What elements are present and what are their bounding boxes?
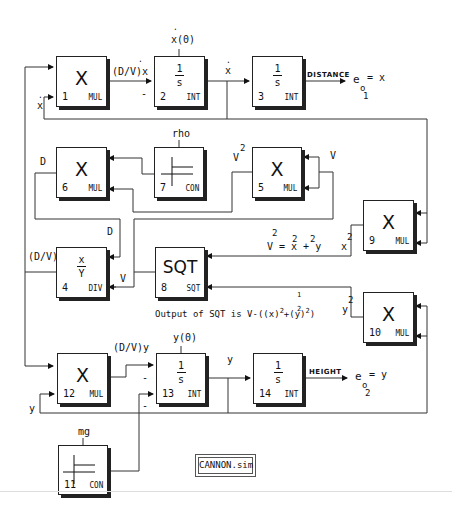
label-mg: mg: [78, 426, 90, 437]
block-type: MUL: [395, 236, 409, 246]
block-14-int[interactable]: 1s 14 INT: [253, 353, 303, 404]
label-v2: V: [233, 152, 239, 163]
block-number: 13: [162, 388, 174, 399]
wire-ydot-10a: [416, 306, 427, 413]
model-title: CANNON.sim: [198, 457, 253, 474]
label-sqt-output: Output of SQT is V-((x)2+(y)2): [155, 307, 315, 319]
label-height: HEIGHT: [309, 368, 342, 376]
label-xdot2-9-sup: 2: [347, 232, 352, 242]
label-xdot-fb: x: [37, 100, 43, 111]
block-number: 4: [62, 282, 68, 293]
label-dv-ydot: (D/V)y: [113, 342, 149, 353]
block-type: SQT: [186, 283, 200, 293]
label-dv-xdot: (D/V)x: [112, 66, 148, 77]
block-type: INT: [186, 92, 200, 102]
label-minus-13b: -: [142, 400, 148, 411]
block-2-int[interactable]: 1s 2 INT: [154, 56, 205, 107]
block-type: INT: [284, 92, 298, 102]
model-title-box: CANNON.sim: [195, 454, 256, 477]
wire-xdot-9b: [416, 213, 427, 243]
label-eo2: e: [355, 370, 362, 383]
wire-dv-bus: [25, 67, 53, 366]
block-5-mul[interactable]: X 5 MUL: [252, 147, 302, 198]
block-8-sqt[interactable]: SQT 8 SQT: [155, 247, 205, 298]
integrator-transfer-function: 1s: [157, 360, 205, 385]
label-ydot-13out: y: [227, 354, 233, 365]
label-d-6: D: [40, 156, 46, 167]
block-number: 7: [160, 182, 166, 193]
label-eo2-rhs: = y: [369, 369, 387, 380]
label-v-5: V: [330, 150, 336, 161]
block-type: CON: [89, 480, 103, 490]
block-type: MUL: [89, 389, 103, 399]
label-ydot-fb: y: [29, 403, 35, 414]
block-type: INT: [284, 389, 298, 399]
label-sqt-half-den: 2: [297, 305, 301, 313]
block-9-mul[interactable]: X 9 MUL: [363, 200, 414, 251]
label-dot: .: [226, 56, 231, 65]
label-minus-13a: -: [142, 372, 148, 383]
block-number: 2: [160, 91, 166, 102]
label-eo1-rhs: = x: [367, 72, 385, 83]
label-v-8: V: [120, 273, 126, 284]
block-3-int[interactable]: 1s 3 INT: [252, 56, 303, 107]
block-number: 12: [63, 388, 75, 399]
label-ydot2-10: y: [342, 304, 348, 315]
integrator-transfer-function: 1s: [155, 63, 204, 88]
block-number: 14: [259, 388, 271, 399]
block-4-div[interactable]: xY 4 DIV: [56, 247, 107, 298]
wire-v-5a: [304, 157, 319, 172]
block-number: 10: [369, 327, 381, 338]
label-minus-2: -: [141, 88, 147, 99]
label-ydot2-10-sup: 2: [348, 295, 353, 305]
block-number: 5: [258, 182, 264, 193]
multiply-symbol: X: [58, 364, 107, 386]
canvas-bottom-divider: [0, 491, 452, 492]
block-number: 1: [62, 91, 68, 102]
label-eo1: e: [353, 73, 360, 86]
label-sqt-half-num: 1: [297, 291, 301, 299]
label-xdot-2out: x: [225, 65, 231, 76]
block-number: 3: [258, 91, 264, 102]
block-type: INT: [187, 389, 201, 399]
multiply-symbol: X: [57, 158, 106, 180]
block-7-con[interactable]: 7 CON: [154, 147, 204, 198]
block-number: 9: [369, 235, 375, 246]
integrator-transfer-function: 1s: [254, 360, 302, 385]
sqrt-symbol: SQT: [156, 257, 204, 277]
label-v2-eq-sup: 2: [272, 228, 277, 238]
block-10-mul[interactable]: X 10 MUL: [363, 292, 414, 343]
block-type: CON: [185, 183, 199, 193]
block-number: 8: [161, 282, 167, 293]
block-type: MUL: [283, 183, 297, 193]
block-number: 6: [62, 182, 68, 193]
block-type: MUL: [395, 328, 409, 338]
block-11-con[interactable]: 11 CON: [58, 445, 108, 495]
label-eo2-sub2: 2: [365, 388, 370, 398]
label-dot: .: [173, 23, 178, 32]
label-eo1-sub2: 1: [363, 91, 368, 101]
label-v2-sup: 2: [240, 143, 245, 153]
block-type: MUL: [88, 92, 102, 102]
block-12-mul[interactable]: X 12 MUL: [57, 353, 108, 404]
label-dot: .: [138, 55, 143, 64]
label-distance: DISTANCE: [307, 71, 350, 79]
multiply-symbol: X: [253, 158, 301, 180]
label-d-4: D: [107, 226, 113, 237]
divider-symbol: xY: [57, 254, 106, 279]
wire-7-6: [109, 158, 154, 174]
label-rho: rho: [172, 128, 190, 139]
block-6-mul[interactable]: X 6 MUL: [56, 147, 107, 198]
label-v2-eq-sup-x: 2: [292, 234, 297, 244]
label-dot: .: [38, 91, 43, 100]
multiply-symbol: X: [364, 211, 413, 233]
block-1-mul[interactable]: X 1 MUL: [56, 56, 107, 107]
label-xdot2-9: x: [341, 241, 347, 252]
integrator-transfer-function: 1s: [253, 63, 302, 88]
block-13-int[interactable]: 1s 13 INT: [156, 353, 206, 404]
block-type: DIV: [88, 283, 102, 293]
label-dv-4: (D/V): [28, 251, 58, 262]
label-v2-eq-sup-y: 2: [310, 234, 315, 244]
label-x0: x(0): [171, 34, 195, 45]
wire-v-5b: [304, 172, 319, 188]
